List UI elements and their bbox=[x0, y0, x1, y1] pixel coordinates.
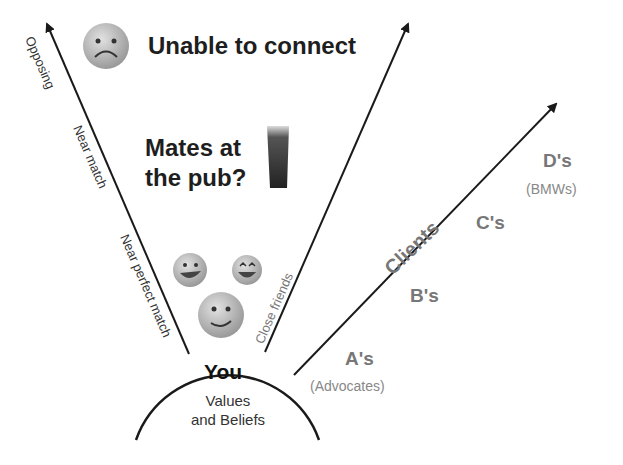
tier-d-label: D's bbox=[543, 150, 572, 172]
grinning-face-icon bbox=[173, 253, 207, 287]
tier-c-label: C's bbox=[476, 212, 505, 234]
smiling-face-icon bbox=[198, 292, 244, 338]
mates-at-pub-label: Mates at the pub? bbox=[145, 133, 246, 193]
values-beliefs-label: Values and Beliefs bbox=[178, 391, 278, 429]
tier-a-label: A's bbox=[345, 348, 374, 370]
you-title: You bbox=[204, 360, 242, 384]
diagram-canvas bbox=[0, 0, 623, 465]
sad-face-icon bbox=[83, 23, 129, 69]
beaming-face-icon bbox=[232, 255, 262, 285]
tier-a-note: (Advocates) bbox=[310, 378, 385, 394]
pint-glass-icon bbox=[267, 126, 289, 188]
unable-to-connect-label: Unable to connect bbox=[148, 32, 356, 60]
tier-d-note: (BMWs) bbox=[526, 181, 577, 197]
tier-b-label: B's bbox=[410, 285, 439, 307]
